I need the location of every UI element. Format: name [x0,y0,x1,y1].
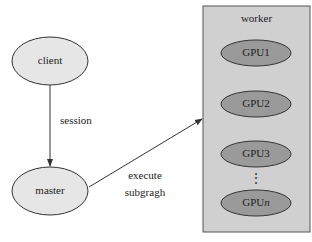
gpun-suffix: n [264,196,270,208]
gpu2-label: GPU2 [221,97,291,110]
gpu1-label: GPU1 [221,46,291,59]
execute-label-line2: subgragh [120,186,170,199]
ellipsis-dots: ⋮ [221,172,291,185]
master-label: master [12,184,88,197]
gpu3-label: GPU3 [221,147,291,160]
client-label: client [12,54,88,67]
gpun-prefix: GPU [242,196,264,208]
execute-label-line1: execute [120,169,170,182]
gpun-label: GPUn [221,196,291,209]
session-label: session [60,114,92,127]
worker-title: worker [203,12,310,25]
